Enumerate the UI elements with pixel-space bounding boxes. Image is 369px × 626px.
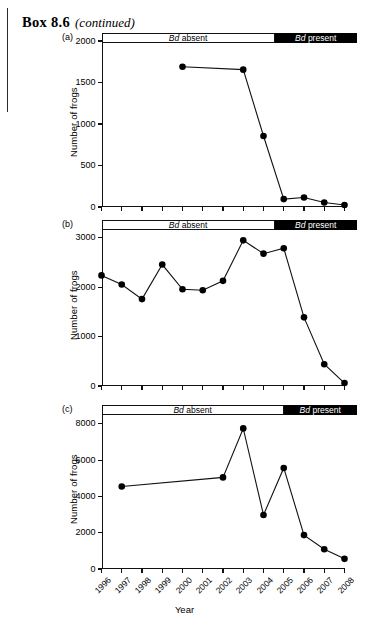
band-status-text: present [308,33,336,43]
y-tick-label: 4000 [56,491,96,501]
x-tick [222,207,223,211]
band-status-text: absent [186,405,212,415]
pathogen-abbrev: Bd [169,33,179,43]
band-status-text: present [312,405,340,415]
bd-absent-band: Bdabsent [102,405,284,416]
x-tick [263,207,264,211]
x-tick-label: 1997 [107,575,132,600]
pathogen-abbrev: Bd [295,220,305,230]
y-tick-label: 1500 [56,77,96,87]
y-tick-label: 3000 [56,232,96,242]
y-tick-label: 2000 [56,36,96,46]
bd-absent-band: Bdabsent [102,220,275,231]
y-tick-label: 1000 [56,119,96,129]
band-status-text: absent [182,220,208,230]
box-title: Box 8.6 [22,14,70,30]
x-tick [162,386,163,390]
x-tick [324,569,325,573]
y-tick [98,237,102,238]
x-tick [101,386,102,390]
plot-area-b [102,228,345,386]
x-tick-label: 2005 [269,575,294,600]
pathogen-abbrev: Bd [169,220,179,230]
x-tick [121,207,122,211]
bd-present-band: Bdpresent [284,405,357,416]
x-tick [202,386,203,390]
x-tick-label: 2001 [188,575,213,600]
x-tick [324,386,325,390]
y-axis-label: Number of frogs [68,454,79,524]
y-tick-label: 2000 [56,282,96,292]
y-tick-label: 1000 [56,331,96,341]
x-tick-label: 2002 [209,575,234,600]
x-tick [162,569,163,573]
y-tick [98,123,102,124]
x-tick [202,207,203,211]
x-tick [243,569,244,573]
x-tick [324,207,325,211]
y-tick-label: 0 [56,381,96,391]
x-tick [263,569,264,573]
x-axis-title: Year [0,604,369,615]
x-tick [121,569,122,573]
bd-present-band: Bdpresent [275,220,357,231]
y-tick [98,165,102,166]
x-tick [141,386,142,390]
x-tick [263,386,264,390]
x-tick [141,569,142,573]
x-tick [101,569,102,573]
pathogen-abbrev: Bd [173,405,183,415]
x-tick [283,569,284,573]
x-tick-label: 1998 [128,575,153,600]
y-tick-label: 0 [56,202,96,212]
y-tick [98,82,102,83]
x-tick [303,569,304,573]
band-status-text: absent [182,33,208,43]
x-tick [222,569,223,573]
x-tick [344,207,345,211]
x-tick [344,386,345,390]
x-tick-label: 2004 [249,575,274,600]
y-tick-label: 2000 [56,527,96,537]
x-tick [303,386,304,390]
x-tick [162,207,163,211]
y-tick [98,336,102,337]
x-tick-label: 1996 [87,575,112,600]
y-tick [98,423,102,424]
page-left-rule [7,8,8,112]
bd-present-band: Bdpresent [275,33,357,44]
band-status-text: present [308,220,336,230]
panel-label-c: (c) [62,404,73,414]
x-tick [121,386,122,390]
x-tick [283,207,284,211]
panel-label-b: (b) [62,219,73,229]
x-tick-label: 2007 [310,575,335,600]
y-tick-label: 500 [56,160,96,170]
x-tick [344,569,345,573]
y-tick [98,287,102,288]
pathogen-abbrev: Bd [300,405,310,415]
x-tick [182,569,183,573]
plot-area-a [102,41,345,207]
x-tick [243,386,244,390]
y-tick [98,532,102,533]
x-tick [243,207,244,211]
box-header: Box 8.6(continued) [22,14,135,31]
y-tick-label: 0 [56,564,96,574]
y-tick-label: 6000 [56,455,96,465]
x-tick [101,207,102,211]
y-tick [98,460,102,461]
box-continued-note: (continued) [75,15,135,30]
x-tick-label: 1999 [148,575,173,600]
x-tick [202,569,203,573]
x-tick [182,207,183,211]
x-tick [283,386,284,390]
x-tick-label: 2006 [290,575,315,600]
x-tick [303,207,304,211]
x-tick [141,207,142,211]
plot-area-c [102,413,345,569]
x-tick [182,386,183,390]
x-tick-label: 2008 [330,575,355,600]
x-tick [222,386,223,390]
bd-absent-band: Bdabsent [102,33,275,44]
